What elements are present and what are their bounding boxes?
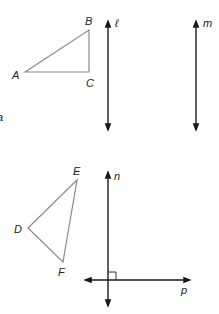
- vertex-label-b: B: [85, 15, 92, 27]
- geometry-figure: ABCEDFℓmnpa: [0, 0, 219, 314]
- line-label-p: p: [180, 284, 187, 296]
- right-angle-mark: [108, 272, 116, 280]
- line-label-n: n: [114, 170, 120, 182]
- vertex-label-e: E: [73, 165, 81, 177]
- figure-canvas: ABCEDFℓmnpa: [0, 0, 219, 314]
- right-angle-marks: [108, 272, 116, 280]
- vertex-label-f: F: [58, 266, 66, 278]
- labels-group: ABCEDFℓmnpa: [0, 15, 212, 296]
- vertex-label-c: C: [86, 77, 94, 89]
- triangles-group: [25, 30, 89, 262]
- line-label-m: m: [203, 17, 212, 29]
- vertex-label-d: D: [14, 223, 22, 235]
- triangle-abc: [25, 30, 89, 72]
- lines-group: [85, 21, 196, 306]
- line-label-l: ℓ: [114, 17, 119, 29]
- cropped-text-fragment: a: [0, 111, 3, 123]
- vertex-label-a: A: [11, 69, 19, 81]
- triangle-def: [28, 180, 77, 262]
